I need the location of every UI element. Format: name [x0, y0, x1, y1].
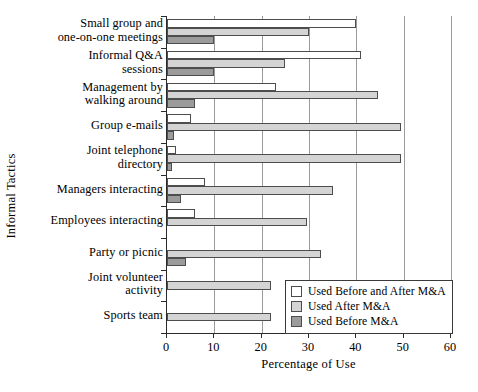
legend-item: Used Before and After M&A: [291, 284, 447, 299]
y-axis-label: Group e-mails: [18, 119, 163, 133]
bar: [167, 250, 321, 258]
bar: [167, 123, 401, 131]
y-axis-label: Party or picnic: [18, 246, 163, 260]
legend-item: Used Before M&A: [291, 314, 447, 329]
bar: [167, 91, 378, 99]
x-tick-label: 0: [146, 340, 186, 355]
bar: [167, 178, 205, 186]
x-tick-label: 30: [288, 340, 328, 355]
bar-group: [167, 83, 451, 108]
y-tick: [161, 111, 166, 112]
bar: [167, 68, 214, 76]
y-tick: [161, 270, 166, 271]
bar: [167, 218, 307, 226]
y-tick: [161, 301, 166, 302]
bar: [167, 114, 191, 122]
bar: [167, 258, 186, 266]
legend-swatch-icon: [291, 301, 302, 312]
y-axis-label: Managers interacting: [18, 183, 163, 197]
legend-item: Used After M&A: [291, 299, 447, 314]
bar: [167, 59, 285, 67]
bar-chart: Informal Tactics Small group and one-on-…: [0, 0, 478, 392]
bar-group: [167, 114, 451, 139]
bar-group: [167, 146, 451, 171]
bar-group: [167, 19, 451, 44]
legend-label: Used Before and After M&A: [308, 285, 446, 298]
y-axis-label: Joint volunteer activity: [18, 271, 163, 298]
y-axis-label: Sports team: [18, 309, 163, 323]
x-tick: [166, 333, 167, 338]
y-tick: [161, 333, 166, 334]
x-tick-label: 20: [241, 340, 281, 355]
bar: [167, 51, 361, 59]
legend-swatch-icon: [291, 286, 302, 297]
y-tick: [161, 175, 166, 176]
bar: [167, 195, 181, 203]
chart-legend: Used Before and After M&AUsed After M&AU…: [285, 280, 453, 334]
y-tick: [161, 206, 166, 207]
y-axis-label: Informal Q&A sessions: [18, 49, 163, 76]
legend-label: Used Before M&A: [308, 315, 398, 328]
bar: [167, 28, 309, 36]
bar: [167, 209, 195, 217]
bar-group: [167, 241, 451, 266]
x-tick-label: 10: [193, 340, 233, 355]
y-axis-label: Management by walking around: [18, 81, 163, 108]
bar: [167, 99, 195, 107]
legend-label: Used After M&A: [308, 300, 391, 313]
x-tick-label: 40: [335, 340, 375, 355]
y-tick: [161, 48, 166, 49]
legend-swatch-icon: [291, 316, 302, 327]
bar: [167, 154, 401, 162]
bar: [167, 19, 356, 27]
bar-group: [167, 51, 451, 76]
bar-group: [167, 209, 451, 234]
y-tick: [161, 238, 166, 239]
y-axis-category-labels: Small group and one-on-one meetingsInfor…: [18, 16, 163, 333]
x-tick-label: 50: [383, 340, 423, 355]
y-tick: [161, 16, 166, 17]
bar: [167, 36, 214, 44]
bar: [167, 131, 174, 139]
x-axis-title: Percentage of Use: [166, 357, 451, 372]
bar: [167, 146, 176, 154]
x-tick-label: 60: [430, 340, 470, 355]
bar: [167, 313, 271, 321]
y-tick: [161, 79, 166, 80]
x-tick: [261, 333, 262, 338]
bar-group: [167, 178, 451, 203]
bar: [167, 186, 333, 194]
y-axis-label: Joint telephone directory: [18, 144, 163, 171]
y-tick: [161, 143, 166, 144]
x-tick: [213, 333, 214, 338]
y-axis-label: Employees interacting: [18, 214, 163, 228]
bar: [167, 163, 172, 171]
bar: [167, 83, 276, 91]
y-axis-label: Small group and one-on-one meetings: [18, 17, 163, 44]
bar: [167, 281, 271, 289]
